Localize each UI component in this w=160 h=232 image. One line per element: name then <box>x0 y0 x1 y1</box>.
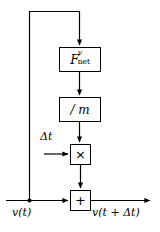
block-sum: + <box>70 190 91 211</box>
net-force-symbol: F v net <box>70 52 90 67</box>
junction-dot <box>27 198 31 202</box>
sum-operator-label: + <box>75 194 86 207</box>
block-multiply: × <box>70 144 91 165</box>
velocity-update-block-diagram: F v net / m × + Δt v(t) v(t + Δt) <box>0 0 160 232</box>
block-net-force: F v net <box>59 47 101 72</box>
divide-by-mass-label: / m <box>70 104 89 116</box>
multiply-operator-label: × <box>75 148 86 161</box>
force-subscript: net <box>78 57 90 66</box>
force-superscript: v <box>78 48 82 57</box>
input-velocity-label: v(t) <box>12 207 31 218</box>
block-divide-by-mass: / m <box>59 97 101 122</box>
output-velocity-label: v(t + Δt) <box>92 207 140 218</box>
timestep-label: Δt <box>40 131 52 142</box>
